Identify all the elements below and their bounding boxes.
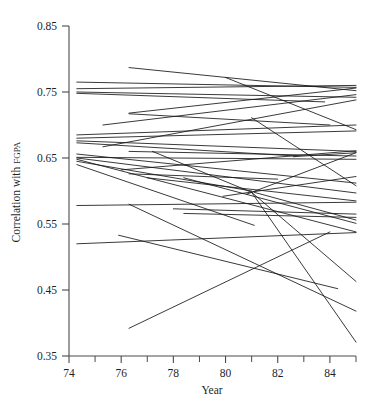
y-axis-title: Correlation with FGPA <box>10 141 22 242</box>
series-line <box>103 100 356 147</box>
x-tick-label: 84 <box>324 367 336 379</box>
y-axis-ticks: 0.350.450.550.650.750.85 <box>37 20 69 362</box>
series-line <box>77 202 356 205</box>
series-line <box>77 85 356 88</box>
series-line <box>77 159 356 232</box>
series-line <box>77 125 356 135</box>
x-axis-title: Year <box>201 384 222 396</box>
series-line <box>77 165 254 226</box>
y-tick-label: 0.55 <box>37 218 57 230</box>
spaghetti-line-chart: 0.350.450.550.650.750.85 747678808284 Co… <box>0 0 374 406</box>
series-line <box>184 178 356 224</box>
series-line <box>129 68 356 91</box>
x-axis-ticks: 747678808284 <box>63 356 356 379</box>
y-tick-label: 0.65 <box>37 152 57 164</box>
series-line <box>77 131 356 138</box>
y-tick-label: 0.45 <box>37 284 57 296</box>
y-tick-label: 0.75 <box>37 86 57 98</box>
x-tick-label: 76 <box>115 367 127 379</box>
svg-text:Correlation with FGPA: Correlation with FGPA <box>10 141 22 242</box>
series-line <box>129 204 356 311</box>
series-line <box>252 192 356 342</box>
y-axis-title-main: Correlation with <box>10 164 22 243</box>
y-axis-title-smallcaps: FGPA <box>12 141 22 164</box>
x-tick-label: 78 <box>168 367 180 379</box>
data-series-lines <box>77 68 356 343</box>
axes <box>69 26 356 356</box>
series-line <box>129 232 330 328</box>
x-tick-label: 74 <box>63 367 75 379</box>
series-line <box>129 88 356 113</box>
chart-figure: 0.350.450.550.650.750.85 747678808284 Co… <box>0 0 374 406</box>
series-line <box>77 141 356 152</box>
series-line <box>77 233 356 244</box>
y-tick-label: 0.85 <box>37 20 57 32</box>
series-line <box>77 158 356 193</box>
y-tick-label: 0.35 <box>37 350 57 362</box>
x-tick-label: 80 <box>220 367 232 379</box>
series-line <box>152 151 251 192</box>
x-tick-label: 82 <box>272 367 284 379</box>
series-line <box>103 95 356 125</box>
